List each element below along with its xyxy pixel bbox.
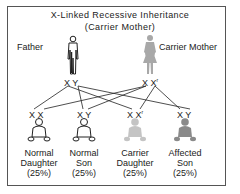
allele: X [77, 110, 83, 120]
child-alleles-normal-daughter: X X [29, 110, 44, 120]
child-label-affected-son: Affected Son (25%) [160, 148, 210, 178]
child-figure-icon-affected-son [174, 118, 196, 141]
allele-x: X [142, 78, 148, 88]
allele: X [127, 110, 133, 120]
percentage: (25%) [14, 168, 64, 178]
label-line: Normal [14, 148, 64, 158]
percentage: (25%) [59, 168, 109, 178]
father-alleles: X Y [64, 78, 78, 88]
allele: X [29, 110, 35, 120]
label-line: Daughter [110, 158, 160, 168]
percentage: (25%) [110, 168, 160, 178]
label-line: Daughter [14, 158, 64, 168]
allele-x: X [64, 78, 70, 88]
mutant-mark: r [157, 77, 159, 83]
allele: Y [85, 110, 91, 120]
label-line: Affected [160, 148, 210, 158]
allele: X [38, 110, 44, 120]
child-label-normal-son: Normal Son (25%) [59, 148, 109, 178]
allele-mutant: X [177, 110, 183, 120]
label-line: Carrier [110, 148, 160, 158]
label-line: Normal [59, 148, 109, 158]
mother-alleles: X Xr [142, 78, 158, 88]
female-figure-icon [143, 35, 157, 74]
male-figure-icon [68, 36, 78, 74]
child-figure-icon-carrier-daughter [124, 118, 146, 141]
child-alleles-affected-son: X Y [177, 110, 191, 120]
child-alleles-carrier-daughter: X Xr [127, 110, 143, 120]
child-label-normal-daughter: Normal Daughter (25%) [14, 148, 64, 178]
allele-x-mutant: X [151, 78, 157, 88]
inheritance-lines [34, 86, 190, 109]
child-figure-icon-normal-son [73, 119, 95, 142]
label-line: Son [160, 158, 210, 168]
allele: Y [185, 110, 191, 120]
allele-mutant: X [136, 110, 142, 120]
child-label-carrier-daughter: Carrier Daughter (25%) [110, 148, 160, 178]
percentage: (25%) [160, 168, 210, 178]
mutant-mark: r [142, 109, 144, 115]
label-line: Son [59, 158, 109, 168]
child-alleles-normal-son: X Y [77, 110, 91, 120]
allele-y: Y [72, 78, 78, 88]
child-figure-icon-normal-daughter [28, 119, 50, 142]
